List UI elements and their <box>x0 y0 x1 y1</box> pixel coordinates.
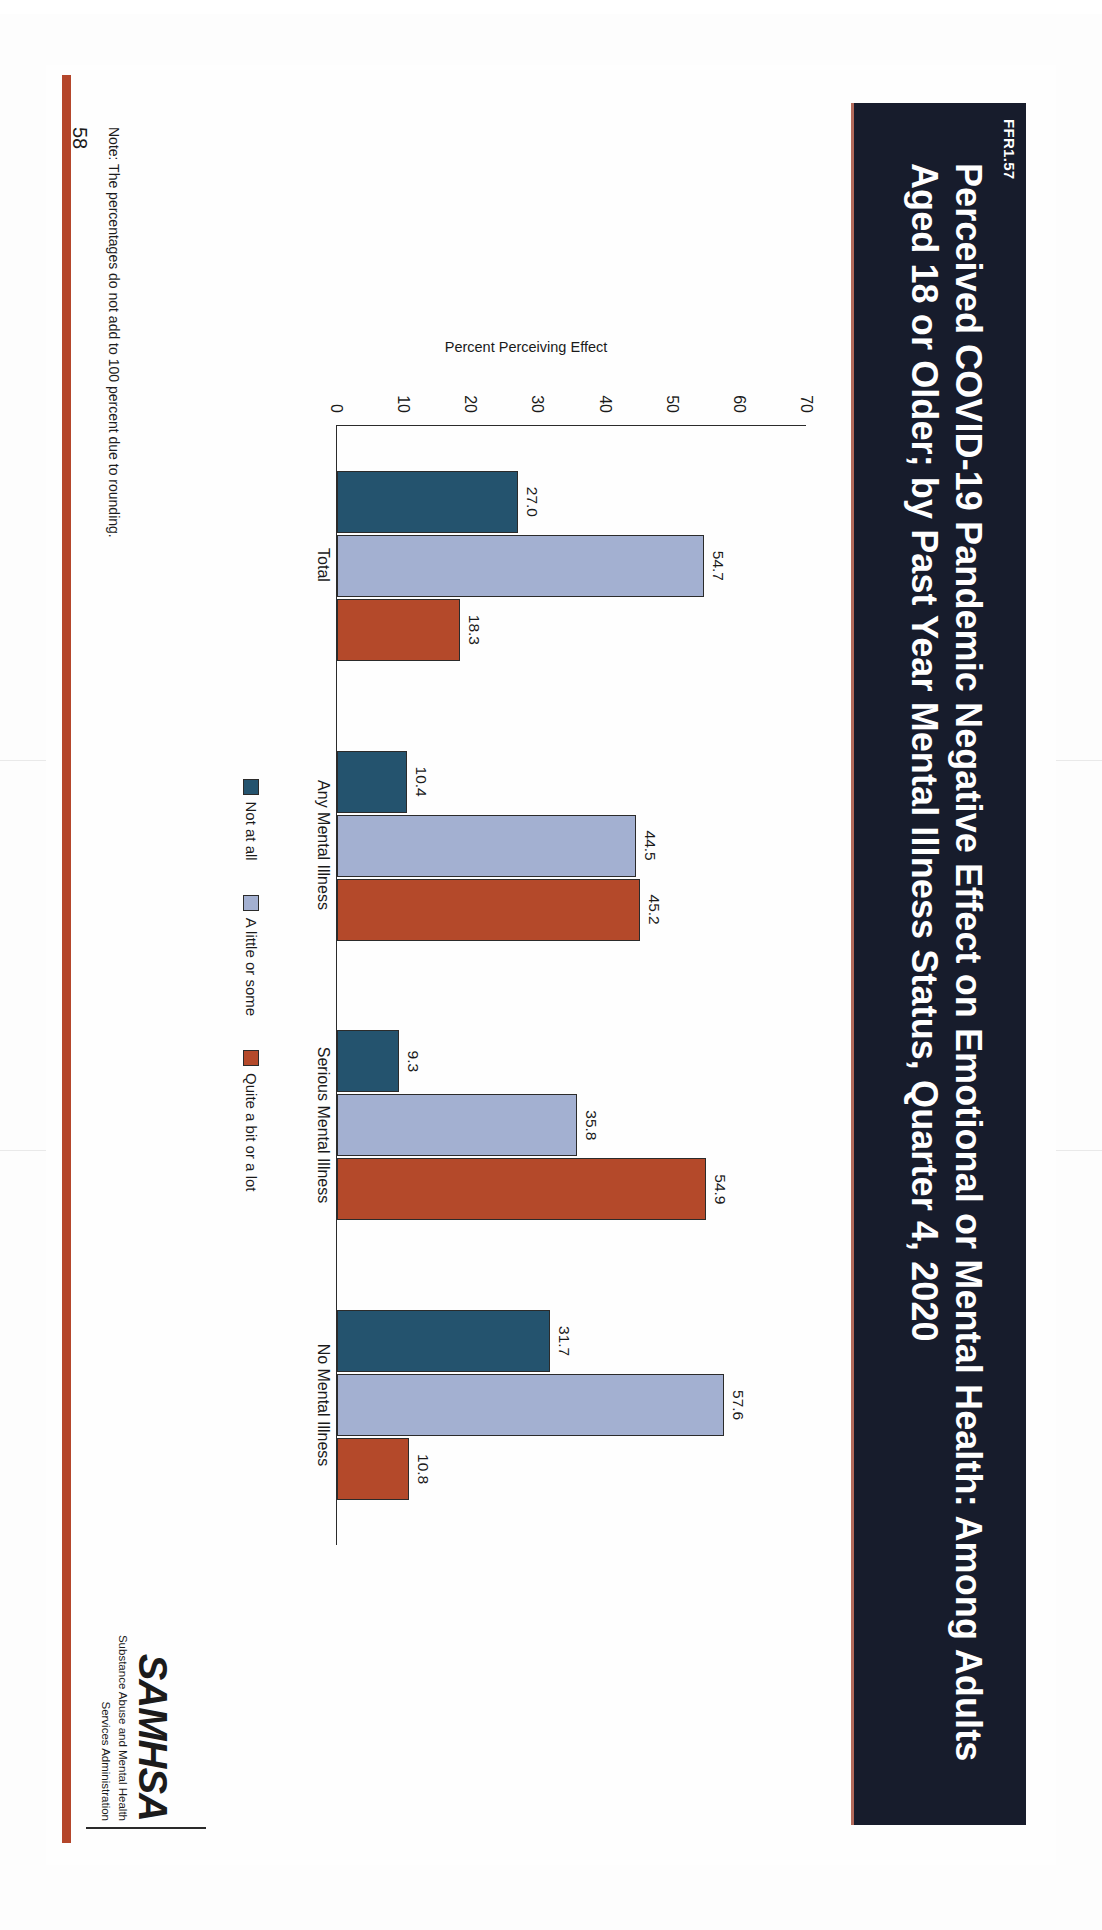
bar-group: 9.335.854.9 <box>337 986 806 1266</box>
y-tick-label: 40 <box>596 395 614 413</box>
bar-chart: Percent Perceiving Effect 70605040302010… <box>246 365 806 1545</box>
page-title: Perceived COVID-19 Pandemic Negative Eff… <box>902 163 990 1785</box>
bar-value-label: 27.0 <box>523 487 541 517</box>
bar[interactable]: 35.8 <box>337 1094 577 1156</box>
bar[interactable]: 31.7 <box>337 1310 550 1372</box>
legend-label: Not at all <box>243 802 260 861</box>
legend-swatch-icon <box>244 895 260 911</box>
x-axis-labels: TotalAny Mental IllnessSerious Mental Il… <box>272 425 332 1545</box>
bar[interactable]: 10.8 <box>337 1438 410 1500</box>
bar-value-label: 57.6 <box>729 1390 747 1420</box>
legend-label: A little or some <box>243 918 260 1016</box>
y-tick-label: 0 <box>327 404 345 413</box>
bar[interactable]: 44.5 <box>337 815 636 877</box>
bar-value-label: 54.9 <box>711 1174 729 1204</box>
bar-value-label: 18.3 <box>465 615 483 645</box>
title-band: FFR1.57 Perceived COVID-19 Pandemic Nega… <box>854 103 1026 1825</box>
legend-swatch-icon <box>244 779 260 795</box>
y-axis-label: Percent Perceiving Effect <box>445 339 608 355</box>
plot-area: 27.054.718.310.444.545.29.335.854.931.75… <box>336 425 806 1545</box>
legend-item[interactable]: Quite a bit or a lot <box>243 1050 260 1191</box>
x-tick-label: Serious Mental Illness <box>272 985 332 1265</box>
bar[interactable]: 57.6 <box>337 1374 724 1436</box>
bar-value-label: 9.3 <box>404 1051 422 1073</box>
legend-label: Quite a bit or a lot <box>243 1073 260 1191</box>
y-tick-label: 20 <box>461 395 479 413</box>
y-tick-label: 50 <box>663 395 681 413</box>
bar-group: 27.054.718.3 <box>337 426 806 706</box>
bar[interactable]: 18.3 <box>337 599 460 661</box>
x-tick-label: No Mental Illness <box>272 1265 332 1545</box>
chart-note: Note: The percentages do not add to 100 … <box>106 127 122 538</box>
title-underline <box>851 103 854 1825</box>
logo-subtitle-line2: Services Administration <box>98 1635 113 1821</box>
y-tick-label: 10 <box>394 395 412 413</box>
bar[interactable]: 27.0 <box>337 471 518 533</box>
bar[interactable]: 10.4 <box>337 751 407 813</box>
samhsa-logo: SAMHSA Substance Abuse and Mental Health… <box>98 1635 173 1821</box>
bar[interactable]: 54.7 <box>337 535 704 597</box>
bar[interactable]: 54.9 <box>337 1158 706 1220</box>
bar-group: 10.444.545.2 <box>337 706 806 986</box>
logo-divider <box>86 1827 206 1829</box>
bar-value-label: 45.2 <box>645 895 663 925</box>
bar-value-label: 44.5 <box>641 831 659 861</box>
logo-subtitle-line1: Substance Abuse and Mental Health <box>116 1635 131 1821</box>
y-tick-label: 60 <box>730 395 748 413</box>
legend-item[interactable]: A little or some <box>243 895 260 1016</box>
y-axis-ticks: 706050403020100 <box>336 375 806 419</box>
y-tick-label: 70 <box>797 395 815 413</box>
x-tick-label: Total <box>272 425 332 705</box>
footer-accent-bar <box>62 75 71 1843</box>
bar-value-label: 54.7 <box>709 551 727 581</box>
bar[interactable]: 45.2 <box>337 879 640 941</box>
x-tick-label: Any Mental Illness <box>272 705 332 985</box>
legend-swatch-icon <box>244 1050 260 1066</box>
figure-id: FFR1.57 <box>1001 119 1018 179</box>
slide-page: FFR1.57 Perceived COVID-19 Pandemic Nega… <box>46 65 1056 1865</box>
bar[interactable]: 9.3 <box>337 1030 399 1092</box>
bar-value-label: 35.8 <box>582 1110 600 1140</box>
bar-group: 31.757.610.8 <box>337 1265 806 1545</box>
chart-legend: Not at allA little or someQuite a bit or… <box>243 425 260 1545</box>
page-number: 58 <box>68 127 91 149</box>
legend-item[interactable]: Not at all <box>243 779 260 861</box>
bar-groups: 27.054.718.310.444.545.29.335.854.931.75… <box>337 426 806 1545</box>
bar-value-label: 10.4 <box>412 767 430 797</box>
scan-top-margin <box>0 0 1102 14</box>
y-tick-label: 30 <box>528 395 546 413</box>
logo-wordmark: SAMHSA <box>133 1635 173 1821</box>
bar-value-label: 10.8 <box>415 1454 433 1484</box>
bar-value-label: 31.7 <box>555 1326 573 1356</box>
